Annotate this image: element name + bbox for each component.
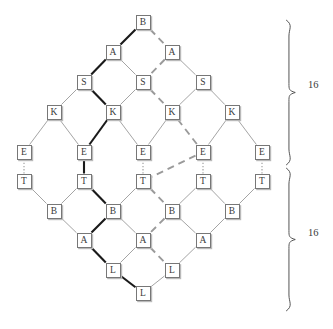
trellis-node[interactable]: K [165,105,180,120]
trellis-node[interactable]: L [106,263,121,278]
trellis-node[interactable]: B [47,204,62,219]
edge-normal [121,248,136,263]
brace-layer [286,20,295,311]
edge-normal [121,90,136,105]
edge-normal [119,120,138,145]
edge-normal [30,120,49,145]
edge-normal [210,90,225,105]
edge-normal [238,120,257,145]
edge-dashed [178,120,197,145]
edge-bold [89,120,107,145]
edge-normal [211,219,225,233]
trellis-node[interactable]: T [77,174,92,189]
edge-dashed [150,90,165,105]
edge-normal [121,189,136,204]
edge-dashed [150,30,165,45]
edge-bold [92,219,106,233]
edge-normal [151,276,165,287]
edge-bold [91,248,106,263]
trellis-node[interactable]: E [255,145,270,160]
trellis-node[interactable]: A [165,45,180,60]
edge-normal [180,59,196,74]
trellis-node[interactable]: A [136,233,151,248]
edge-dashed [150,248,165,263]
edge-normal [180,188,196,203]
edge-normal [210,189,225,204]
edge-normal [180,218,196,233]
edge-normal [121,60,136,75]
trellis-node[interactable]: T [136,174,151,189]
trellis-node[interactable]: E [17,145,32,160]
edge-normal [62,218,77,233]
trellis-node[interactable]: T [17,174,32,189]
trellis-node[interactable]: S [196,75,211,90]
trellis-node[interactable]: L [165,263,180,278]
edge-normal [32,189,47,204]
edge-dashed [151,219,165,233]
edge-normal [180,89,196,104]
edge-bold [121,276,136,288]
edge-normal [208,120,226,145]
edge-dashed [150,60,165,75]
trellis-node[interactable]: T [255,174,270,189]
edge-normal [180,247,196,262]
edge-normal [62,189,77,204]
trellis-node[interactable]: K [225,105,240,120]
trellis-node[interactable]: E [77,145,92,160]
edge-bold [121,30,136,45]
edge-normal [121,218,136,233]
edge-bold [91,90,106,105]
trellis-node[interactable]: E [196,145,211,160]
trellis-node[interactable]: B [225,204,240,219]
trellis-node[interactable]: S [136,75,151,90]
trellis-node[interactable]: L [136,286,151,301]
trellis-node[interactable]: E [136,145,151,160]
edge-bold [91,60,106,75]
edge-dashed [150,189,165,204]
brace-bottom-label: 16 [308,227,319,238]
trellis-node[interactable]: A [77,233,92,248]
edge-bold [91,189,106,204]
trellis-node[interactable]: T [196,174,211,189]
trellis-node[interactable]: A [106,45,121,60]
brace-bottom [286,168,295,311]
trellis-node[interactable]: S [77,75,92,90]
edge-normal [240,189,255,204]
brace-top-label: 16 [308,79,319,90]
edge-dashed [151,156,196,178]
edge-normal [148,120,166,145]
figure-canvas: BAASSSKKKKEEEEETTTTTBBBBAAALLL 1616 [0,0,333,329]
trellis-node[interactable]: B [165,204,180,219]
brace-top [286,20,295,165]
trellis-node[interactable]: K [106,105,121,120]
trellis-node[interactable]: K [47,105,62,120]
trellis-node[interactable]: B [106,204,121,219]
edge-normal [62,90,77,105]
edge-normal [60,120,79,145]
trellis-node[interactable]: A [196,233,211,248]
trellis-node[interactable]: B [136,15,151,30]
